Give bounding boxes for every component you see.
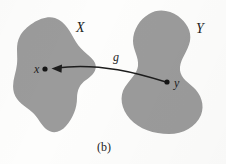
point-x-dot xyxy=(42,66,47,71)
figure-graphics xyxy=(0,0,226,164)
mapping-label-g: g xyxy=(113,51,119,63)
set-label-x: X xyxy=(76,21,85,35)
point-y-dot xyxy=(164,79,169,84)
figure-caption: (b) xyxy=(97,140,111,155)
point-label-y: y xyxy=(174,77,179,89)
set-label-y: Y xyxy=(196,22,204,36)
point-label-x: x xyxy=(34,63,39,75)
figure-panel: X Y x y g (b) xyxy=(0,0,226,164)
set-y-region xyxy=(122,10,203,134)
